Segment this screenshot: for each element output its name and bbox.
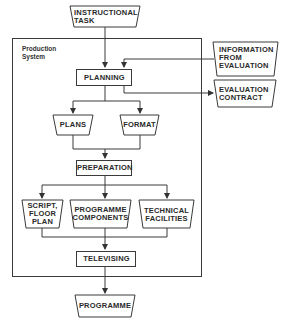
preparation-label: PREPARATION [77, 164, 132, 172]
production-system-label: Production System [22, 45, 56, 61]
planning-label: PLANNING [77, 74, 132, 82]
information-from-evaluation-label: INFORMATION FROM EVALUATION [219, 46, 275, 70]
format-label: FORMAT [120, 121, 159, 129]
plans-label: PLANS [53, 121, 93, 129]
televising-label: TELEVISING [77, 255, 136, 263]
instructional-task-label: INSTRUCTIONAL TASK [74, 9, 136, 25]
evaluation-contract-label: EVALUATION CONTRACT [219, 86, 271, 102]
technical-facilities-label: TECHNICAL FACILITIES [139, 207, 194, 223]
programme-components-label: PROGRAMME COMPONENTS [70, 206, 131, 222]
programme-label: PROGRAMME [75, 302, 135, 310]
script-floor-plan-label: SCRIPT, FLOOR PLAN [22, 202, 63, 226]
